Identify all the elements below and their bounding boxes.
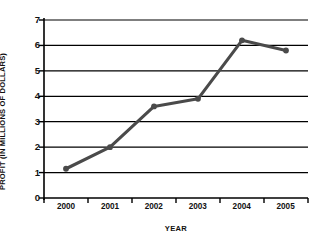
x-tick-label-2001: 2001 bbox=[88, 203, 132, 211]
x-tick-label-2005: 2005 bbox=[264, 203, 308, 211]
x-tick-label-2004: 2004 bbox=[220, 203, 264, 211]
data-point-2005 bbox=[283, 48, 289, 54]
data-point-2002 bbox=[151, 104, 157, 110]
line-chart: PROFIT (IN MILLIONS OF DOLLARS) 7 6 5 4 … bbox=[0, 0, 315, 243]
x-tick-label-2003: 2003 bbox=[176, 203, 220, 211]
x-tick-label-2000: 2000 bbox=[44, 203, 88, 211]
data-line-profit bbox=[66, 40, 286, 168]
data-point-2003 bbox=[195, 96, 201, 102]
x-axis-title: YEAR bbox=[44, 224, 308, 233]
data-point-2004 bbox=[239, 37, 245, 43]
data-point-2000 bbox=[63, 166, 69, 172]
x-tick-label-2002: 2002 bbox=[132, 203, 176, 211]
data-point-markers bbox=[63, 37, 289, 171]
data-point-2001 bbox=[107, 144, 113, 150]
